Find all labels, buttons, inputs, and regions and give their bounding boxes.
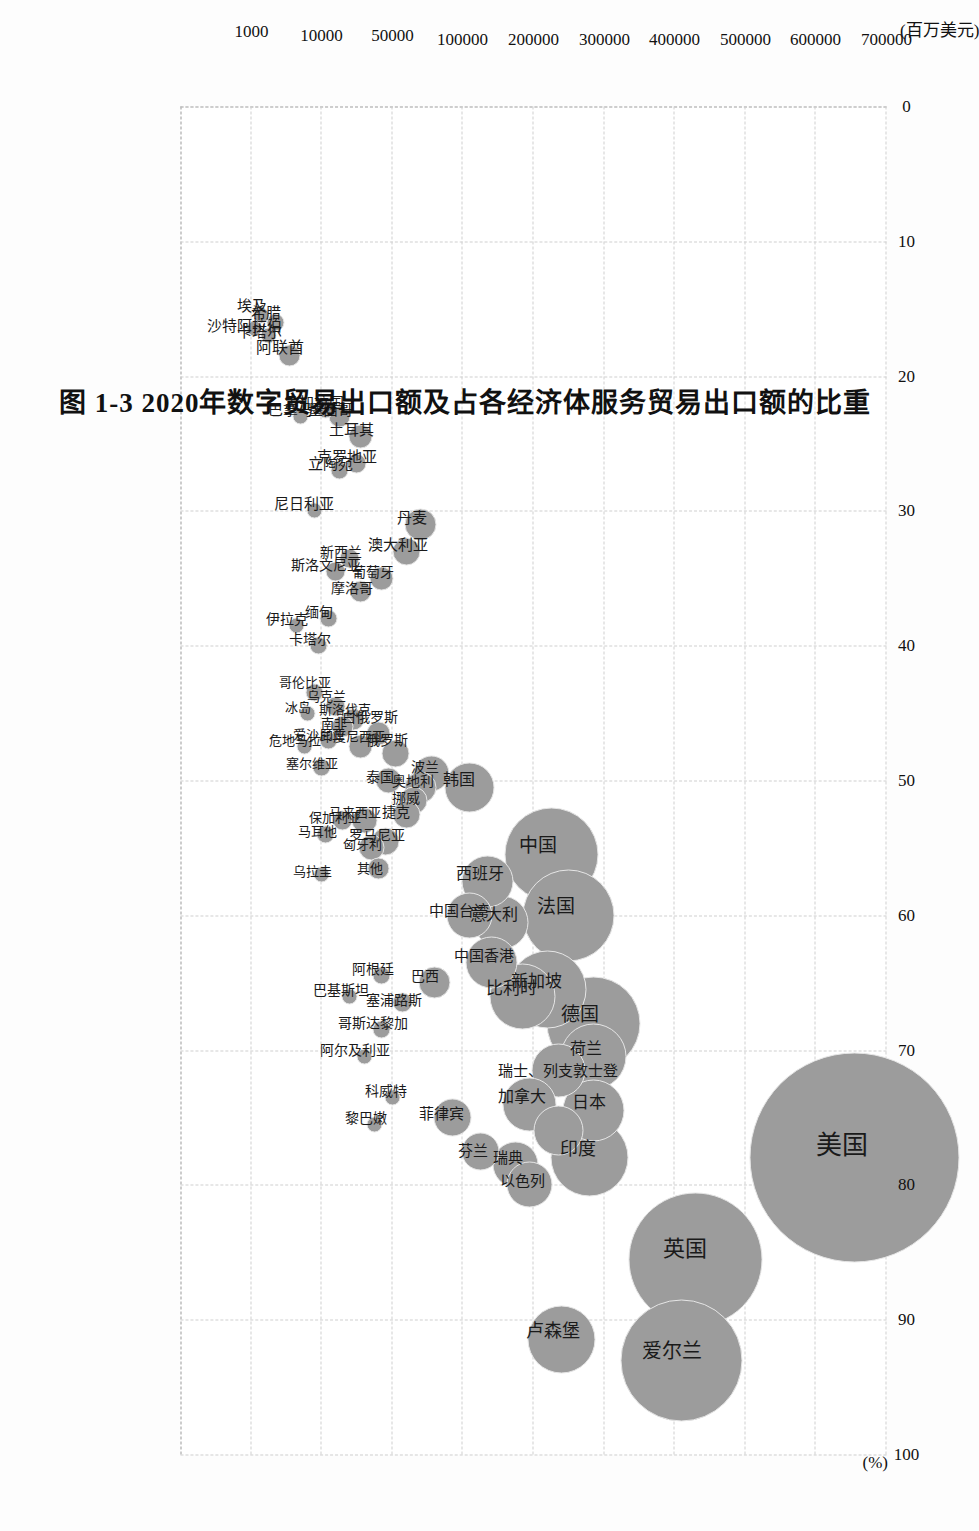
bubble-point[interactable] bbox=[313, 866, 329, 882]
x-tick-label: 20 bbox=[898, 366, 915, 386]
bubble-point[interactable] bbox=[418, 966, 450, 998]
x-tick-label: 40 bbox=[898, 635, 915, 655]
bubble-point[interactable] bbox=[351, 807, 377, 833]
x-tick-label: 0 bbox=[902, 96, 911, 116]
bubble-point[interactable] bbox=[309, 636, 327, 654]
bubble-point[interactable] bbox=[366, 1116, 382, 1132]
bubble-point[interactable] bbox=[533, 1105, 583, 1155]
bubble-point[interactable] bbox=[527, 1305, 595, 1373]
y-gridline bbox=[250, 106, 251, 1454]
bubble-point[interactable] bbox=[312, 758, 330, 776]
bubble-point[interactable] bbox=[325, 561, 345, 581]
bubble-point[interactable] bbox=[316, 825, 334, 843]
bubble-point[interactable] bbox=[341, 988, 357, 1004]
bubble-point[interactable] bbox=[296, 738, 312, 754]
x-tick-label: 50 bbox=[898, 770, 915, 790]
x-tick-label: 60 bbox=[898, 905, 915, 925]
y-tick-label: 10000 bbox=[300, 25, 343, 45]
bubble-point[interactable] bbox=[461, 1132, 499, 1170]
y-tick-label: 700000 bbox=[861, 30, 912, 50]
bubble-point[interactable] bbox=[330, 461, 348, 479]
bubble-point[interactable] bbox=[404, 508, 436, 540]
bubble-point[interactable] bbox=[260, 327, 276, 343]
bubble-point[interactable] bbox=[465, 936, 517, 988]
y-tick-label: 50000 bbox=[371, 25, 414, 45]
bubble-point[interactable] bbox=[522, 869, 614, 961]
bubble-point[interactable] bbox=[319, 731, 337, 749]
x-tick-label: 30 bbox=[898, 500, 915, 520]
bubble-point[interactable] bbox=[356, 1048, 372, 1064]
bubble-point[interactable] bbox=[369, 566, 393, 590]
y-tick-label: 600000 bbox=[790, 30, 841, 50]
bubble-point[interactable] bbox=[332, 810, 352, 830]
bubble-point[interactable] bbox=[506, 1161, 552, 1207]
x-tick-label: 80 bbox=[898, 1174, 915, 1194]
y-tick-label: 500000 bbox=[719, 30, 770, 50]
y-gridline bbox=[320, 106, 321, 1454]
bubble-point[interactable] bbox=[246, 320, 262, 336]
y-tick-label: 400000 bbox=[649, 30, 700, 50]
bubble-point[interactable] bbox=[299, 705, 315, 721]
bubble-point[interactable] bbox=[349, 580, 371, 602]
y-tick-label: 300000 bbox=[578, 30, 629, 50]
bubble-point[interactable] bbox=[446, 892, 492, 938]
bubble-point[interactable] bbox=[620, 1299, 742, 1421]
bubble-point[interactable] bbox=[375, 767, 401, 793]
bubble-label: 尼日利亚 bbox=[274, 495, 334, 510]
bubble-label: 危地马拉 bbox=[269, 733, 321, 746]
y-gridline bbox=[532, 106, 533, 1454]
bubble-point[interactable] bbox=[325, 696, 345, 716]
bubble-point[interactable] bbox=[392, 992, 412, 1012]
bubble-point[interactable] bbox=[372, 966, 390, 984]
y-gridline bbox=[603, 106, 604, 1454]
bubble-point[interactable] bbox=[392, 537, 420, 565]
figure-caption: 图 1-3 2020年数字贸易出口额及占各经济体服务贸易出口额的比重 bbox=[59, 381, 872, 420]
bubble-point[interactable] bbox=[348, 424, 372, 448]
bubble-point[interactable] bbox=[392, 800, 420, 828]
bubble-point[interactable] bbox=[348, 734, 372, 758]
bubble-point[interactable] bbox=[372, 1020, 390, 1038]
bubble-point[interactable] bbox=[347, 453, 367, 473]
bubble-point[interactable] bbox=[384, 1089, 400, 1105]
y-tick-label: 200000 bbox=[508, 30, 559, 50]
bubble-point[interactable] bbox=[433, 1098, 471, 1136]
bubble-label: 哥伦比亚 bbox=[279, 675, 331, 688]
bubble-point[interactable] bbox=[381, 739, 409, 767]
bubble-point[interactable] bbox=[306, 502, 322, 518]
y-tick-label: 1000 bbox=[234, 21, 268, 41]
x-tick-label: 100 bbox=[893, 1444, 919, 1464]
plot-area: 美国英国爱尔兰卢森堡德国中国法国印度新加坡荷兰日本比利时瑞士、列支敦士登加拿大意… bbox=[180, 106, 886, 1454]
x-tick-label: 70 bbox=[898, 1040, 915, 1060]
bubble-point[interactable] bbox=[749, 1052, 959, 1262]
bubble-point[interactable] bbox=[319, 609, 337, 627]
y-tick-label: 100000 bbox=[437, 30, 488, 50]
bubble-point[interactable] bbox=[444, 762, 494, 812]
bubble-point[interactable] bbox=[289, 617, 305, 633]
bubble-point[interactable] bbox=[367, 857, 389, 879]
bubble-point[interactable] bbox=[305, 683, 323, 701]
bubble-point[interactable] bbox=[278, 344, 300, 366]
x-tick-label: 10 bbox=[898, 231, 915, 251]
x-tick-label: 90 bbox=[898, 1309, 915, 1329]
